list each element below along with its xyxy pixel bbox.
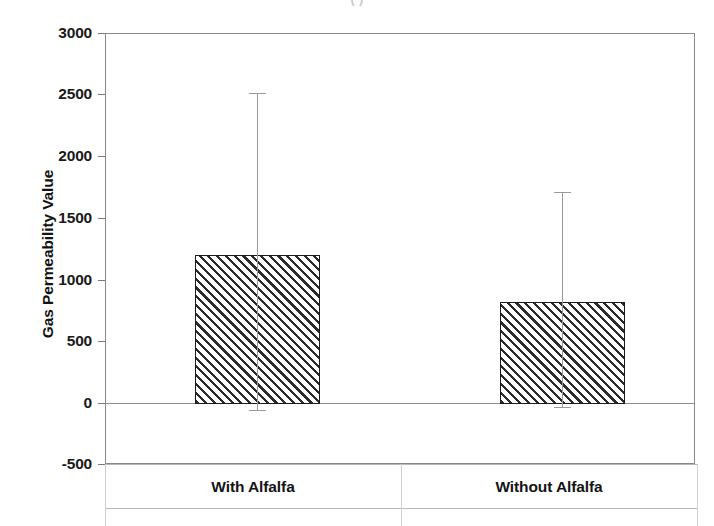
y-tick-label-2500: 2500 bbox=[58, 85, 92, 103]
y-tick-label-1000: 1000 bbox=[58, 271, 92, 289]
y-tick-label-2000: 2000 bbox=[58, 147, 92, 165]
bar-chart-figure: ( ) Gas Permeability Value 3000 2500 200… bbox=[0, 0, 714, 526]
y-tick-label--500: -500 bbox=[62, 455, 92, 473]
error-bar-cap-lower-with-alfalfa bbox=[249, 410, 266, 411]
y-tick-label-0: 0 bbox=[84, 394, 92, 412]
clipped-title-remnant: ( ) bbox=[0, 0, 714, 6]
error-bar-cap-upper-with-alfalfa bbox=[249, 93, 266, 94]
error-bar-stem-without-alfalfa bbox=[562, 192, 563, 407]
category-axis-table: With Alfalfa Without Alfalfa bbox=[105, 464, 698, 509]
error-bar-cap-upper-without-alfalfa bbox=[554, 192, 571, 193]
y-tick-label-1500: 1500 bbox=[58, 209, 92, 227]
stub-line-right bbox=[697, 509, 698, 526]
stub-line-middle bbox=[401, 509, 402, 526]
category-label-without-alfalfa: Without Alfalfa bbox=[401, 464, 697, 509]
stub-line-left bbox=[105, 509, 106, 526]
error-bar-cap-lower-without-alfalfa bbox=[554, 407, 571, 408]
y-tick-label-3000: 3000 bbox=[58, 24, 92, 42]
y-axis-title: Gas Permeability Value bbox=[39, 129, 57, 379]
category-label-with-alfalfa: With Alfalfa bbox=[105, 464, 401, 509]
error-bar-stem-with-alfalfa bbox=[257, 93, 258, 410]
category-divider-right bbox=[697, 464, 698, 509]
y-tick-label-500: 500 bbox=[67, 332, 92, 350]
